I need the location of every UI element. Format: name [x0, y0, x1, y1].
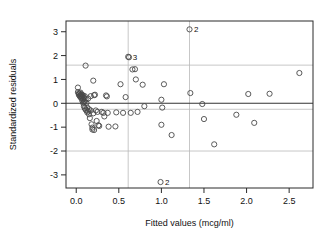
data-point: [120, 110, 125, 115]
data-point: [201, 116, 206, 121]
data-point: [246, 91, 251, 96]
data-point: [114, 110, 119, 115]
y-axis-tick-label: 0: [53, 99, 58, 109]
data-point: [140, 82, 145, 87]
data-point: [169, 132, 174, 137]
residuals-scatter-chart: -3-2-101230.00.51.01.52.02.5232Fitted va…: [0, 0, 335, 240]
y-axis-title: Standardized residuals: [8, 58, 18, 150]
y-axis-tick-label: 3: [53, 27, 58, 37]
data-point: [200, 101, 205, 106]
data-point: [234, 112, 239, 117]
data-point: [252, 120, 257, 125]
x-axis-tick-label: 2.5: [283, 196, 296, 206]
y-axis-tick-label: -3: [50, 170, 58, 180]
plot-canvas: -3-2-101230.00.51.01.52.02.5232Fitted va…: [0, 0, 335, 240]
x-axis-tick-label: 0.5: [113, 196, 126, 206]
y-axis-tick-label: 2: [53, 51, 58, 61]
outlier-label: 2: [194, 25, 199, 34]
x-axis-title: Fitted values (mcg/ml): [145, 218, 234, 228]
data-point: [106, 124, 111, 129]
data-point: [188, 90, 193, 95]
y-axis-tick-label: -1: [50, 122, 58, 132]
data-point: [297, 70, 302, 75]
data-point: [128, 110, 133, 115]
outlier-label: 2: [165, 178, 170, 187]
data-point: [91, 78, 96, 83]
x-axis-tick-label: 1.5: [198, 196, 211, 206]
data-point: [133, 77, 138, 82]
data-point: [123, 95, 128, 100]
data-point: [113, 124, 118, 129]
data-point: [159, 97, 164, 102]
y-axis-tick-label: 1: [53, 75, 58, 85]
x-axis-tick-label: 1.0: [155, 196, 168, 206]
x-axis-tick-label: 0.0: [70, 196, 83, 206]
data-point: [89, 122, 94, 127]
y-axis-tick-label: -2: [50, 146, 58, 156]
x-axis-tick-label: 2.0: [240, 196, 253, 206]
data-point: [135, 109, 140, 114]
data-point: [267, 91, 272, 96]
data-point: [158, 179, 163, 184]
data-point: [161, 82, 166, 87]
data-point: [212, 142, 217, 147]
data-point: [142, 104, 147, 109]
data-point: [159, 122, 164, 127]
data-point: [118, 82, 123, 87]
outlier-label: 3: [133, 53, 138, 62]
data-point: [83, 63, 88, 68]
